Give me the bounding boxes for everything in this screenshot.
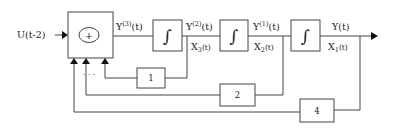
gain-1-value: 1 bbox=[148, 73, 153, 83]
feedback-arrow-2-icon bbox=[82, 58, 90, 64]
sum-symbol: + bbox=[85, 30, 93, 41]
signal-y-label: Y(t) bbox=[331, 21, 350, 32]
signal-x1-label: X1(t) bbox=[328, 41, 348, 54]
signal-x2-label: X2(t) bbox=[254, 41, 274, 54]
feedback-wire-1b bbox=[105, 64, 137, 78]
signal-x3-label: X3(t) bbox=[191, 41, 211, 54]
output-arrow-icon bbox=[371, 32, 378, 40]
signal-y3-label: Y(3)(t) bbox=[115, 20, 143, 32]
block-diagram: U(t-2) + Y(3)(t) ∫ Y(2)(t) X3(t) ∫ Y(1)(… bbox=[0, 0, 393, 128]
signal-y2-label: Y(2)(t) bbox=[185, 20, 213, 32]
feedback-arrow-4-icon bbox=[70, 58, 78, 64]
integral-icon: ∫ bbox=[301, 26, 310, 46]
integral-icon: ∫ bbox=[230, 26, 239, 46]
feedback-arrow-1-icon bbox=[101, 58, 109, 64]
input-label: U(t-2) bbox=[17, 29, 46, 40]
integral-icon: ∫ bbox=[163, 26, 172, 46]
gain-2-value: 2 bbox=[235, 90, 240, 100]
ellipsis: · · · bbox=[83, 70, 96, 79]
signal-y1-label: Y(1)(t) bbox=[252, 20, 280, 32]
gain-4-value: 4 bbox=[314, 106, 319, 116]
input-arrow-icon bbox=[62, 31, 68, 39]
